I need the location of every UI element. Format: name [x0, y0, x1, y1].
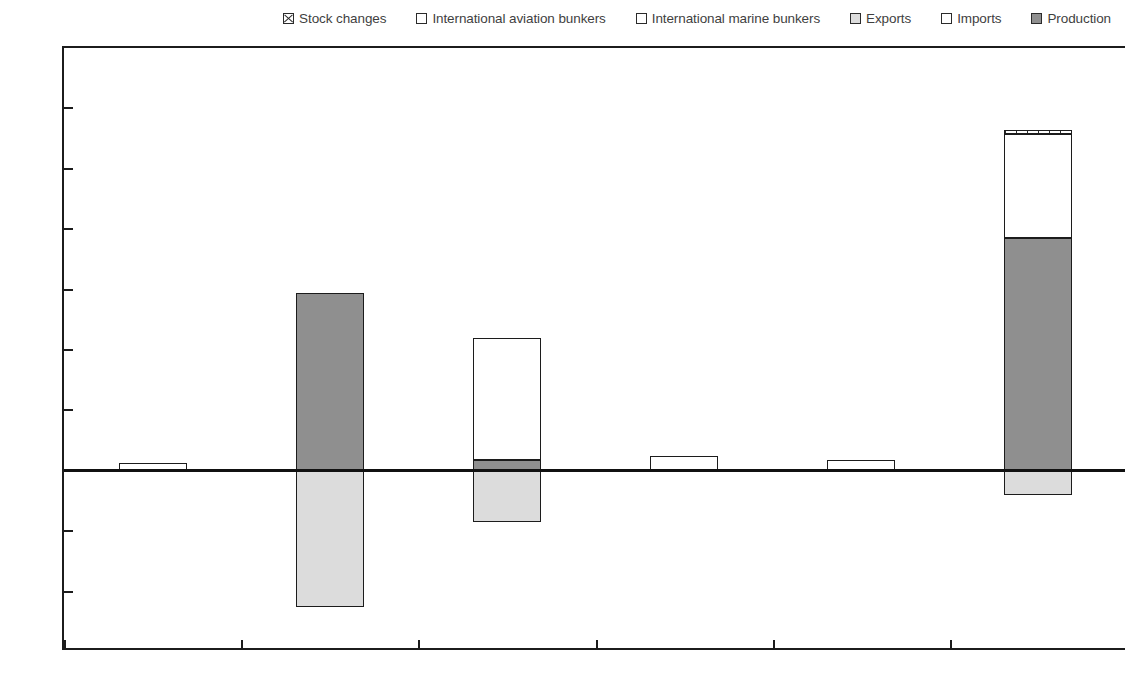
y-axis-tick-mark [64, 591, 73, 593]
bar-segment-exports[interactable] [296, 471, 364, 607]
legend-swatch-imports-icon [941, 13, 952, 24]
x-axis-tick-mark [596, 640, 598, 649]
bar-group-armenia[interactable] [119, 48, 187, 648]
legend-label: Stock changes [299, 11, 386, 26]
x-axis-tick-mark [64, 640, 66, 649]
plot-area: 140120100806040200-20-40-60ArmeniaAzerba… [62, 46, 1125, 650]
bar-segment-imports[interactable] [473, 338, 541, 460]
legend-item-imports[interactable]: Imports [941, 11, 1001, 26]
legend-item-stock[interactable]: Stock changes [283, 11, 386, 26]
y-axis-tick-mark [64, 228, 73, 230]
legend-item-production[interactable]: Production [1031, 11, 1111, 26]
legend-label: International marine bunkers [652, 11, 820, 26]
x-axis-tick-mark [418, 640, 420, 649]
y-axis-tick-mark [64, 168, 73, 170]
y-axis-tick-mark [64, 289, 73, 291]
chart-legend: Stock changesInternational aviation bunk… [0, 0, 1125, 36]
bar-group-belarus[interactable] [473, 48, 541, 648]
legend-swatch-avbunkers-icon [416, 13, 427, 24]
legend-label: Exports [866, 11, 911, 26]
y-axis-tick-mark [64, 530, 73, 532]
x-axis-tick-mark [773, 640, 775, 649]
legend-label: Production [1047, 11, 1111, 26]
bar-group-georgia[interactable] [650, 48, 718, 648]
bar-segment-stock[interactable] [1004, 130, 1072, 135]
legend-item-exports[interactable]: Exports [850, 11, 911, 26]
x-axis-tick-mark [241, 640, 243, 649]
legend-swatch-exports-icon [850, 13, 861, 24]
bar-segment-exports[interactable] [1004, 471, 1072, 495]
legend-label: Imports [957, 11, 1001, 26]
bar-segment-production[interactable] [296, 293, 364, 471]
x-axis-tick-mark [950, 640, 952, 649]
y-axis-tick-mark [64, 107, 73, 109]
bar-segment-exports[interactable] [473, 471, 541, 522]
bar-group-moldova[interactable] [827, 48, 895, 648]
bar-group-azerbaijan[interactable] [296, 48, 364, 648]
legend-swatch-stock-icon [283, 13, 294, 24]
bar-segment-imports[interactable] [1004, 134, 1072, 238]
zero-baseline [64, 469, 1125, 472]
y-axis-tick-mark [64, 409, 73, 411]
bar-group-ukraine[interactable] [1004, 48, 1072, 648]
bar-segment-production[interactable] [1004, 238, 1072, 471]
legend-item-marbunkers[interactable]: International marine bunkers [636, 11, 820, 26]
y-axis-tick-mark [64, 349, 73, 351]
legend-swatch-marbunkers-icon [636, 13, 647, 24]
legend-swatch-production-icon [1031, 13, 1042, 24]
stacked-bar-chart: Stock changesInternational aviation bunk… [0, 0, 1125, 681]
legend-item-avbunkers[interactable]: International aviation bunkers [416, 11, 605, 26]
legend-label: International aviation bunkers [432, 11, 605, 26]
